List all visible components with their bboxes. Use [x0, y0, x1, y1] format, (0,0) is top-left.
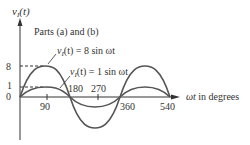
x-tick-90: 90 — [40, 101, 50, 112]
legend-1sin: vI(t) = 1 sin ωt — [70, 66, 128, 79]
chart-title: Parts (a) and (b) — [34, 26, 99, 38]
y-tick-1: 1 — [7, 80, 12, 91]
x-axis-arrow-icon — [171, 95, 180, 100]
y-axis-label: vI(t) — [12, 5, 30, 19]
x-tick-270: 270 — [91, 83, 106, 94]
y-tick-8: 8 — [6, 61, 11, 72]
y-axis-arrow-icon — [18, 18, 23, 26]
legend-8sin: vI(t) = 8 sin ωt — [57, 45, 115, 58]
sine-chart: vI(t) Parts (a) and (b) vI(t) = 8 sin ωt… — [0, 0, 250, 145]
x-tick-540: 540 — [160, 101, 175, 112]
x-tick-180: 180 — [68, 83, 83, 94]
leader-8sin — [48, 54, 56, 64]
x-tick-360: 360 — [120, 101, 135, 112]
x-axis-label: ωt in degrees — [186, 91, 239, 102]
y-tick-0: 0 — [6, 91, 11, 102]
